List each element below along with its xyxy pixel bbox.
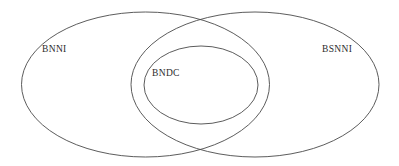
ellipse-left-set xyxy=(22,12,270,157)
set-label-left: BNNI xyxy=(42,45,67,55)
venn-diagram: BNNI BSNNI BNDC xyxy=(0,0,399,166)
venn-diagram-canvas xyxy=(0,0,399,166)
set-label-right: BSNNI xyxy=(322,45,352,55)
set-label-center: BNDC xyxy=(152,69,180,79)
ellipse-center-set xyxy=(144,46,258,124)
ellipse-right-set xyxy=(131,12,379,157)
